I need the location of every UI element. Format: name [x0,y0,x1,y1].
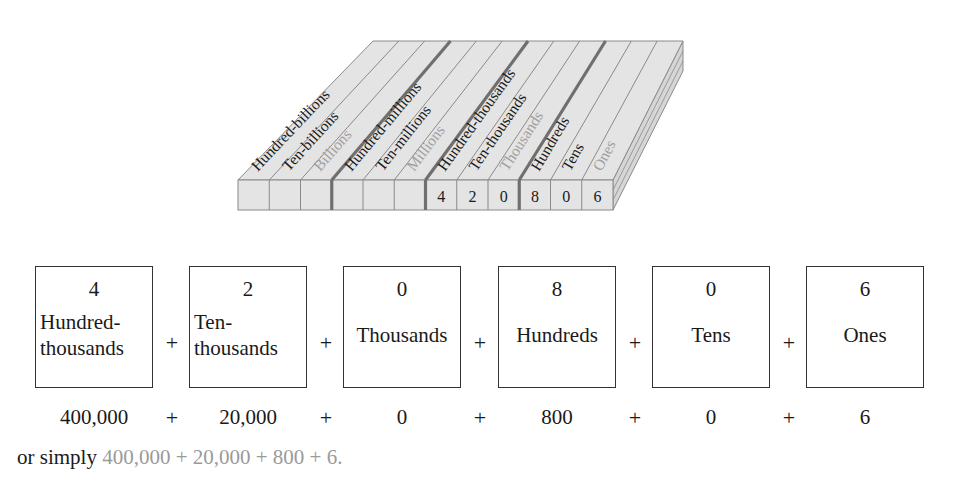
place-name: Thousands [344,322,460,348]
place-name: Ones [807,322,923,348]
place-value: 0 [641,405,781,430]
simply-prefix: or simply [17,445,102,469]
place-digit: 6 [593,188,601,205]
place-value: 20,000 [178,405,318,430]
plus-sign: + [620,330,650,356]
simply-expression: 400,000 + 20,000 + 800 + 6. [102,445,342,469]
place-digit: 8 [499,277,615,302]
simplified-expression: or simply 400,000 + 20,000 + 800 + 6. [17,445,342,470]
place-name-line1: Hundred- [40,309,152,335]
place-name: Hundreds [499,322,615,348]
place-digit: 0 [344,277,460,302]
place-name: Tens [653,322,769,348]
place-value-block-diagram: Hundred-billionsTen-billionsBillionsHund… [0,0,957,230]
place-box-hundreds: 8 Hundreds [498,266,616,388]
place-value: 400,000 [24,405,164,430]
place-name-line2: thousands [194,335,306,361]
place-digit: 8 [531,188,539,205]
place-digit: 6 [807,277,923,302]
place-name-line2: thousands [40,335,152,361]
place-digit: 0 [500,188,508,205]
place-box-ten-thousands: 2 Ten- thousands [189,266,307,388]
place-digit: 4 [437,188,445,205]
plus-sign: + [465,330,495,356]
place-box-hundred-thousands: 4 Hundred- thousands [35,266,153,388]
place-name: Ten- thousands [190,309,306,361]
place-box-tens: 0 Tens [652,266,770,388]
place-digit: 0 [562,188,570,205]
place-box-thousands: 0 Thousands [343,266,461,388]
place-digit: 0 [653,277,769,302]
place-name: Hundred- thousands [36,309,152,361]
place-value: 0 [332,405,472,430]
place-digit: 2 [190,277,306,302]
plus-sign: + [311,330,341,356]
place-digit: 2 [468,188,476,205]
plus-sign: + [774,330,804,356]
place-box-ones: 6 Ones [806,266,924,388]
place-value: 6 [795,405,935,430]
place-digit: 4 [36,277,152,302]
place-name-line1: Ten- [194,309,306,335]
plus-sign: + [157,330,187,356]
place-value: 800 [487,405,627,430]
